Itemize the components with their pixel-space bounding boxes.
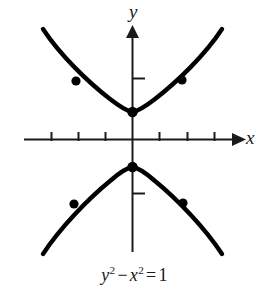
point-upper-right bbox=[177, 75, 186, 84]
marked-points bbox=[69, 75, 187, 208]
hyperbola-plot bbox=[0, 0, 269, 307]
equation-minus-operator: − bbox=[115, 265, 129, 285]
y-axis-arrowhead bbox=[126, 25, 139, 38]
equation-x-variable: x bbox=[130, 265, 138, 285]
x-axis bbox=[24, 132, 246, 146]
point-lower-left bbox=[69, 199, 78, 208]
equation-caption: y2−x2=1 bbox=[0, 265, 269, 286]
point-vertex-upper bbox=[127, 107, 137, 117]
x-axis-label: x bbox=[246, 128, 254, 147]
point-lower-right bbox=[178, 198, 187, 207]
equation-y-variable: y bbox=[101, 265, 109, 285]
y-axis-label: y bbox=[129, 2, 137, 21]
point-vertex-lower bbox=[127, 162, 137, 172]
hyperbola-figure: y x y2−x2=1 bbox=[0, 0, 269, 307]
x-axis-arrowhead bbox=[232, 133, 246, 146]
point-upper-left bbox=[71, 76, 80, 85]
equation-equals-operator: = bbox=[144, 265, 158, 285]
equation-right-hand-side: 1 bbox=[158, 265, 167, 285]
